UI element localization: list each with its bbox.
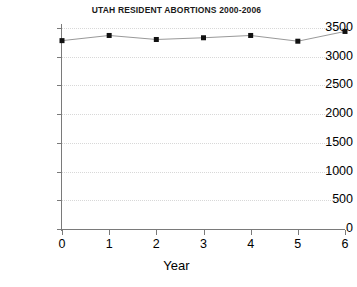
x-axis-tick: [204, 230, 205, 235]
gridline: [62, 200, 345, 201]
x-axis-label: 4: [239, 238, 263, 251]
x-axis-line: [61, 229, 345, 230]
y-axis-label: 500: [307, 193, 353, 206]
x-axis-label: 5: [286, 238, 310, 251]
series-line: [62, 31, 345, 41]
x-axis-label: 1: [97, 238, 121, 251]
y-axis-label: 3500: [307, 21, 353, 34]
gridline: [62, 85, 345, 86]
y-axis-label: 2000: [307, 107, 353, 120]
x-axis-label: 3: [192, 238, 216, 251]
data-point: [248, 33, 253, 38]
x-axis-tick: [109, 230, 110, 235]
x-axis-label: 2: [144, 238, 168, 251]
x-axis-tick: [156, 230, 157, 235]
x-axis-tick: [345, 230, 346, 235]
x-axis-tick: [62, 230, 63, 235]
x-axis-label: 0: [50, 238, 74, 251]
gridline: [62, 143, 345, 144]
series-markers: [60, 29, 348, 44]
gridline: [62, 114, 345, 115]
gridline: [62, 57, 345, 58]
data-point: [201, 35, 206, 40]
x-axis-tick: [298, 230, 299, 235]
y-axis-label: 2500: [307, 78, 353, 91]
chart-title: UTAH RESIDENT ABORTIONS 2000-2006: [0, 5, 353, 15]
y-axis-label: 1000: [307, 165, 353, 178]
gridline: [62, 28, 345, 29]
x-axis-tick: [251, 230, 252, 235]
x-axis-title: Year: [0, 258, 353, 273]
data-point: [154, 37, 159, 42]
data-point: [295, 39, 300, 44]
y-axis-line: [61, 24, 62, 231]
gridline: [62, 172, 345, 173]
y-axis-label: 1500: [307, 136, 353, 149]
data-point: [107, 33, 112, 38]
y-axis-label: 3000: [307, 50, 353, 63]
x-axis-label: 6: [333, 238, 357, 251]
